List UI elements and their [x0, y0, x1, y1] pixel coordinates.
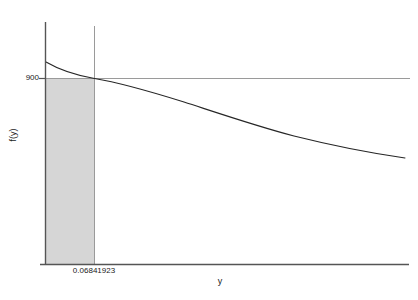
x-tick-label-root: 0.06841923 [46, 266, 142, 275]
x-axis-title: y [175, 276, 265, 286]
chart-figure: 900 0.06841923 y f(y) [0, 0, 418, 300]
shaded-area-under-threshold [46, 78, 94, 264]
plot-area [0, 0, 418, 300]
data-curve [46, 62, 405, 158]
y-tick-label-900: 900 [21, 73, 39, 82]
y-axis-title: f(y) [8, 110, 18, 160]
